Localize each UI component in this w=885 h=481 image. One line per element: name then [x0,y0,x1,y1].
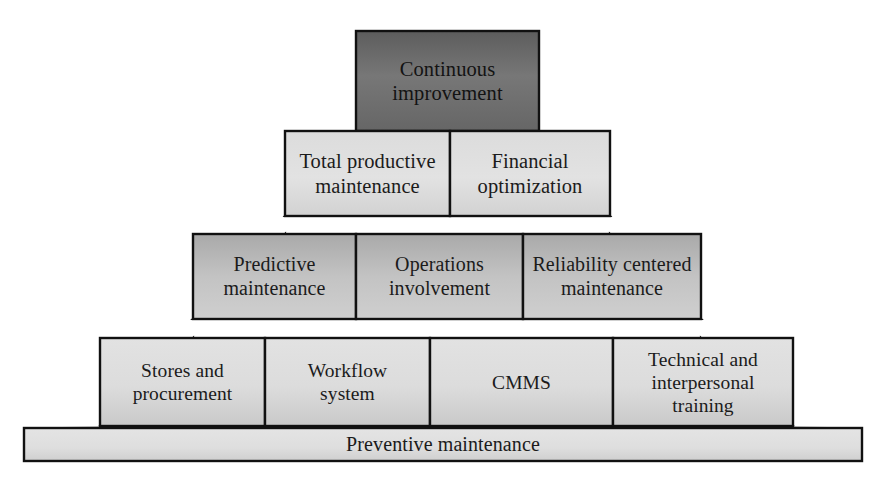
tier-three [193,234,701,319]
block-stores-and-procurement [100,338,265,426]
tier-two [285,131,610,216]
tier-foundation [24,428,862,461]
block-reliability-centered-maintenance [523,234,701,319]
block-predictive-maintenance [193,234,356,319]
block-total-productive-maintenance [285,131,450,216]
block-financial-optimization [450,131,610,216]
pyramid-shapes [0,0,885,481]
block-technical-and-interpersonal-training [613,338,793,426]
block-workflow-system [265,338,430,426]
block-operations-involvement [356,234,523,319]
block-continuous-improvement [356,31,539,131]
block-cmms [430,338,613,426]
block-preventive-maintenance [24,428,862,461]
tier-apex [356,31,539,131]
tier-four [100,338,793,426]
pyramid-diagram: Continuous improvement Total productive … [0,0,885,481]
